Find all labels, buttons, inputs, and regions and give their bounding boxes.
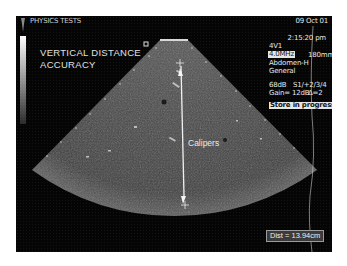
calipers-annotation: Calipers [188, 139, 219, 148]
mode-label: General [269, 68, 295, 75]
grayscale-bar [20, 36, 26, 124]
time-label: 2:15:20 pm [288, 35, 326, 42]
title-line-1: VERTICAL DISTANCE [40, 47, 141, 58]
store-status: Store in progress [269, 102, 332, 109]
orientation-marker-icon [144, 42, 148, 46]
distance-readout: Dist = 13.94cm [266, 230, 324, 242]
dynamic-range-label: 68dB [269, 82, 286, 89]
depth-label: 180mm [308, 52, 332, 59]
preset-label: Abdomen-H [269, 60, 309, 67]
date-label: 09 Oct 01 [295, 18, 328, 25]
delta-label: Δ=2 [308, 90, 323, 97]
tgc-curve [309, 26, 313, 252]
gain-label: Gain= 12dB [269, 90, 309, 97]
title-line-2: ACCURACY [40, 59, 96, 70]
transducer-face [160, 39, 188, 41]
probe-label: 4V1 [269, 43, 282, 50]
ultrasound-display: PHYSICS TESTS 09 Oct 01 2:15:20 pm VERTI… [16, 16, 332, 252]
probe-icon [20, 18, 26, 32]
frequency-label: 4.0MHz [268, 51, 295, 58]
app-label: PHYSICS TESTS [30, 18, 81, 25]
processing-label: S1/+2/3/4 [293, 82, 326, 89]
